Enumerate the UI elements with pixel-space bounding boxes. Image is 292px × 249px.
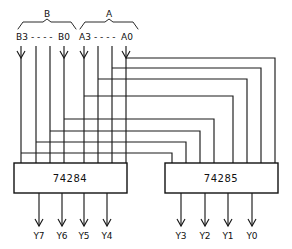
input-label-b-dots: - - - - xyxy=(31,32,53,42)
group-a-label: A xyxy=(106,9,113,19)
output-y5-label: Y5 xyxy=(77,231,89,241)
output-y0-label: Y0 xyxy=(245,231,257,241)
branch-wire-b3 xyxy=(21,153,172,163)
branch-wire-b1 xyxy=(50,131,200,163)
chip-74285-label: 74285 xyxy=(204,173,238,184)
output-y6-label: Y6 xyxy=(55,231,67,241)
branch-wire-b0 xyxy=(64,119,214,163)
output-y1-label: Y1 xyxy=(221,231,233,241)
output-label-layer: Y7Y6Y5Y4Y3Y2Y1Y0 xyxy=(32,231,257,241)
branch-wire-layer xyxy=(21,58,275,163)
group-brackets: BA xyxy=(18,9,138,29)
group-b-label: B xyxy=(44,9,50,19)
input-label-b3: B3 xyxy=(16,32,28,42)
input-label-a-dots: - - - - xyxy=(94,32,116,42)
diagram-root: BA B3- - - -B0A3- - - -A0 7428474285 Y7Y… xyxy=(0,0,292,249)
input-label-b0: B0 xyxy=(58,32,70,42)
output-y3-label: Y3 xyxy=(174,231,186,241)
output-line-layer xyxy=(35,193,256,226)
input-label-a3: A3 xyxy=(79,32,91,42)
branch-wire-a2 xyxy=(98,79,247,163)
chip-74284-label: 74284 xyxy=(53,173,87,184)
chip-label-layer: 7428474285 xyxy=(53,173,238,184)
output-y2-label: Y2 xyxy=(198,231,210,241)
circuit-schematic: BA B3- - - -B0A3- - - -A0 7428474285 Y7Y… xyxy=(0,0,292,249)
output-y4-label: Y4 xyxy=(100,231,112,241)
input-label-layer: B3- - - -B0A3- - - -A0 xyxy=(16,32,133,42)
input-label-a0: A0 xyxy=(121,32,133,42)
output-y7-label: Y7 xyxy=(32,231,44,241)
group-a-bracket xyxy=(80,19,138,29)
input-line-layer xyxy=(17,46,130,163)
group-b-bracket xyxy=(18,19,76,29)
